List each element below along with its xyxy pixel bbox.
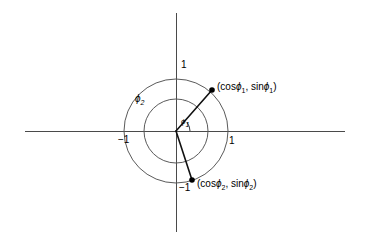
- x-axis-label-negative-one: −1: [118, 135, 129, 145]
- phi2-subscript: 2: [141, 99, 145, 106]
- point-label-phi2: (cosϕ2, sinϕ2): [197, 179, 257, 189]
- point1-open-paren: (cos: [217, 81, 236, 92]
- y-axis-label-positive-one: 1: [181, 60, 187, 70]
- phi2-annotation: ϕ2: [135, 94, 144, 104]
- figure-canvas: 1 1 −1 −1 ϕ2 ϕ1 (cosϕ1, sinϕ1) (cosϕ2, s…: [0, 0, 366, 244]
- phi1-angle-annotation: ϕ1: [181, 118, 189, 126]
- vector-phi2: [176, 131, 192, 180]
- point1-separator: , sin: [245, 81, 263, 92]
- point1-close-paren: ): [273, 81, 276, 92]
- y-axis-label-negative-one: −1: [179, 183, 190, 193]
- point-label-phi1: (cosϕ1, sinϕ1): [217, 82, 277, 92]
- phi1-angle-subscript: 1: [185, 121, 189, 128]
- point-marker-phi2: [189, 177, 195, 183]
- point-marker-phi1: [209, 87, 215, 93]
- x-axis-label-positive-one: 1: [229, 136, 235, 146]
- point2-close-paren: ): [253, 178, 256, 189]
- point2-open-paren: (cos: [197, 178, 216, 189]
- point2-separator: , sin: [225, 178, 243, 189]
